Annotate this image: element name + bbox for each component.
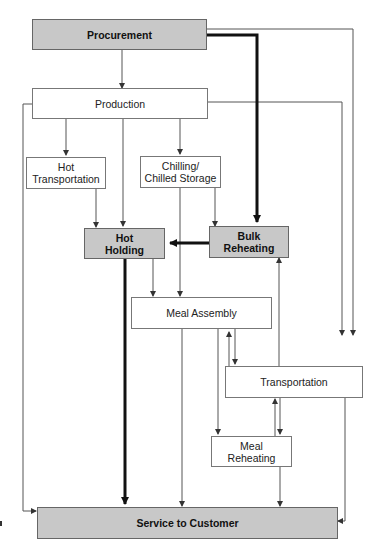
node-label: Procurement <box>87 29 152 41</box>
node-label-line2: Reheating <box>228 452 276 464</box>
node-chilling-storage: Chilling/ Chilled Storage <box>140 156 221 188</box>
node-label-line1: Hot <box>116 232 134 244</box>
node-label-line1: Meal <box>240 440 263 452</box>
node-label-line2: Holding <box>105 244 144 256</box>
node-meal-assembly: Meal Assembly <box>131 297 272 329</box>
node-bulk-reheating: Bulk Reheating <box>209 226 289 258</box>
node-service-to-customer: Service to Customer <box>37 507 338 539</box>
node-hot-holding: Hot Holding <box>84 228 165 259</box>
connector-lines <box>0 0 379 549</box>
node-label: Service to Customer <box>136 517 238 529</box>
node-label-line2: Reheating <box>224 242 275 254</box>
node-label-line1: Hot <box>58 161 74 173</box>
node-hot-transportation: Hot Transportation <box>26 157 106 189</box>
node-procurement: Procurement <box>32 19 207 50</box>
node-label: Meal Assembly <box>166 307 237 319</box>
node-label: Transportation <box>260 376 327 388</box>
node-label-line2: Chilled Storage <box>145 172 217 184</box>
node-label-line1: Chilling/ <box>162 160 199 172</box>
node-label: Production <box>95 98 145 110</box>
edge-mark <box>0 521 2 526</box>
node-transportation: Transportation <box>225 366 363 398</box>
node-production: Production <box>32 88 208 119</box>
node-label-line1: Bulk <box>238 230 261 242</box>
node-label-line2: Transportation <box>32 173 99 185</box>
node-meal-reheating: Meal Reheating <box>211 436 292 467</box>
